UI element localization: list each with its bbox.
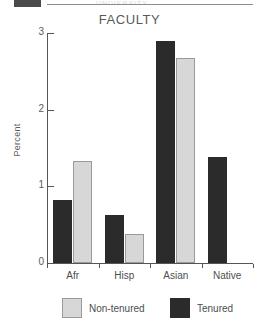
bar-afr-non-tenured xyxy=(73,161,92,263)
bar-hisp-non-tenured xyxy=(125,234,144,263)
chart-legend: Non-tenured Tenured xyxy=(0,298,259,330)
bar-series-layer xyxy=(0,0,259,263)
chart-plot-area: Percent 0123 AfrHispAsianNative xyxy=(0,0,259,290)
legend-swatch-non-tenured-icon xyxy=(62,298,82,318)
bar-afr-tenured xyxy=(53,200,72,263)
bar-asian-tenured xyxy=(156,41,175,263)
bar-asian-non-tenured xyxy=(176,58,195,263)
bar-hisp-tenured xyxy=(105,215,124,263)
legend-label-non-tenured: Non-tenured xyxy=(89,303,145,314)
bar-native-tenured xyxy=(208,157,227,263)
x-axis-label-native: Native xyxy=(203,270,251,281)
x-axis-label-hisp: Hisp xyxy=(100,270,148,281)
legend-item-tenured: Tenured xyxy=(170,298,233,318)
legend-item-non-tenured: Non-tenured xyxy=(62,298,145,318)
x-axis-tick xyxy=(150,264,151,268)
x-axis-label-asian: Asian xyxy=(152,270,200,281)
y-axis-tick xyxy=(48,263,54,264)
x-axis-tick xyxy=(253,264,254,268)
x-axis-tick xyxy=(202,264,203,268)
legend-swatch-tenured-icon xyxy=(170,298,190,318)
x-axis-label-afr: Afr xyxy=(49,270,97,281)
x-axis-tick xyxy=(99,264,100,268)
x-axis-tick xyxy=(47,264,48,268)
legend-label-tenured: Tenured xyxy=(197,303,233,314)
